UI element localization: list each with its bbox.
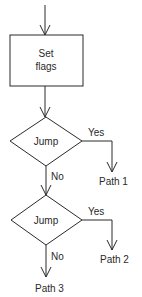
decision-diamond-2: Jump bbox=[11, 195, 82, 245]
decision2-yes-branch: Yes Path 2 bbox=[82, 206, 129, 265]
decision1-yes-branch: Yes Path 1 bbox=[82, 127, 128, 187]
path3-label: Path 3 bbox=[35, 283, 64, 294]
decision-diamond-1: Jump bbox=[10, 117, 82, 166]
decision2-no-label: No bbox=[51, 251, 64, 262]
decision2-no-branch: No Path 3 bbox=[35, 245, 64, 294]
process-label-line1: Set bbox=[38, 48, 53, 59]
flowchart: Set flags Jump Yes Path 1 No Jump Yes Pa… bbox=[0, 0, 142, 297]
decision1-no-label: No bbox=[51, 171, 64, 182]
decision2-yes-label: Yes bbox=[88, 206, 104, 217]
process-box-set-flags: Set flags bbox=[10, 35, 83, 86]
entry-arrow bbox=[40, 5, 50, 35]
decision1-label: Jump bbox=[34, 136, 59, 147]
process-label-line2: flags bbox=[35, 61, 56, 72]
decision2-label: Jump bbox=[34, 215, 59, 226]
path1-label: Path 1 bbox=[99, 176, 128, 187]
path2-label: Path 2 bbox=[100, 254, 129, 265]
decision1-no-branch: No bbox=[41, 166, 64, 195]
decision1-yes-label: Yes bbox=[88, 127, 104, 138]
arrow-to-decision1 bbox=[40, 86, 50, 117]
